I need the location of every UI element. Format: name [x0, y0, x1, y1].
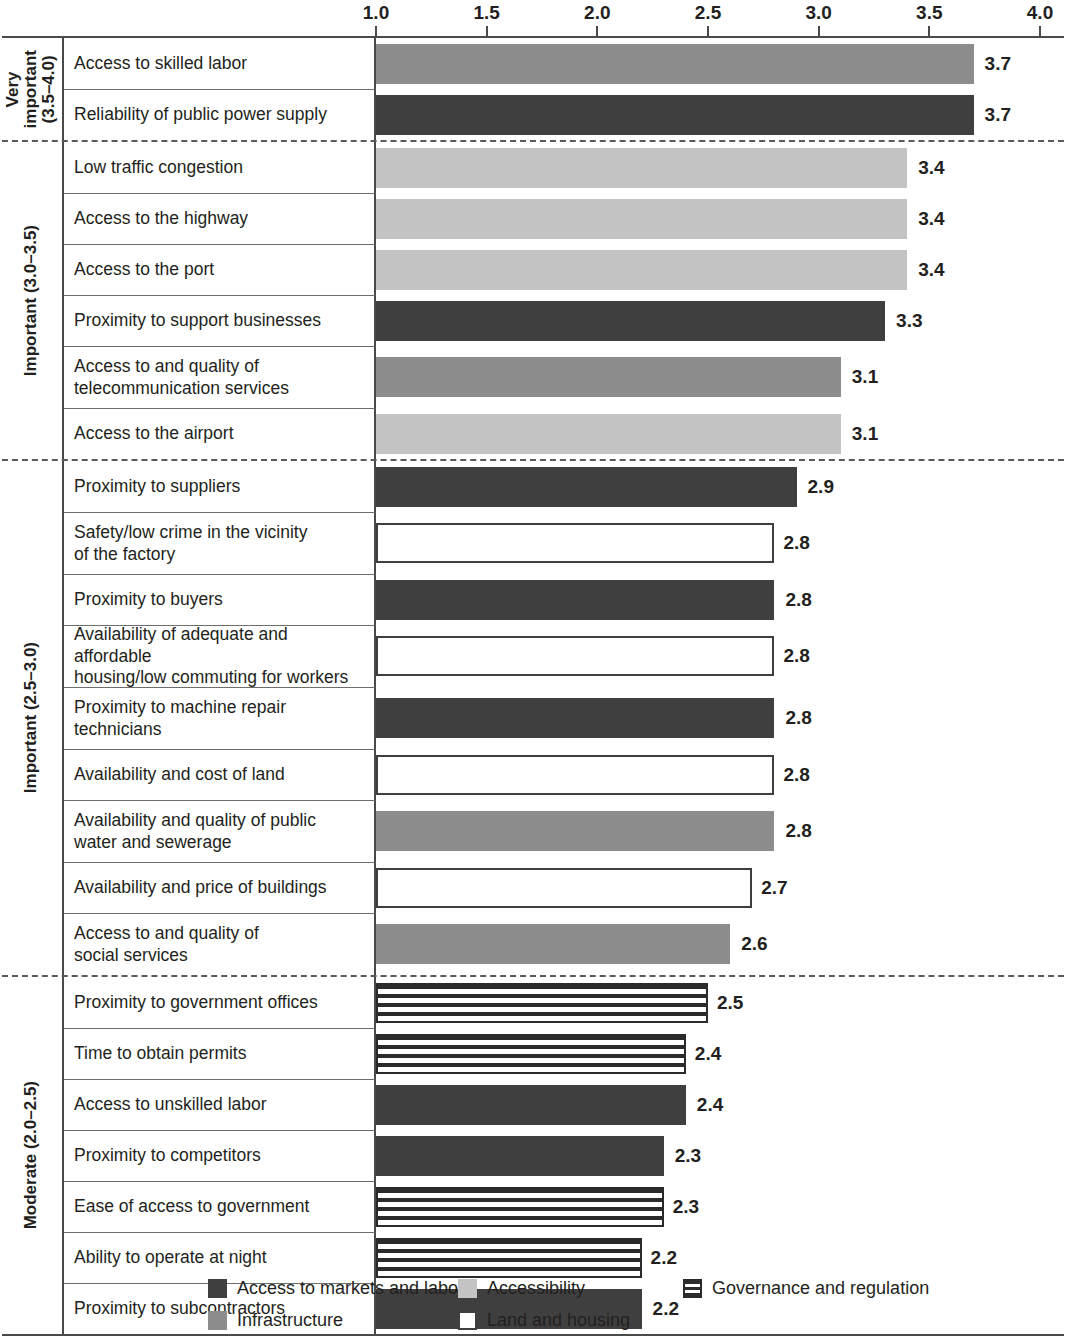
row-label: Access to the port: [64, 244, 376, 295]
x-axis-tick-label: 3.5: [916, 2, 942, 24]
row-label: Access to skilled labor: [64, 38, 376, 89]
legend-column: Access to markets and laborInfrastructur…: [208, 1278, 458, 1331]
bar-governance: 2.3: [376, 1187, 664, 1227]
bar-value-label: 3.4: [918, 208, 944, 230]
row-plot-area: 2.6: [376, 913, 1066, 975]
row-plot-area: 2.8: [376, 749, 1066, 800]
bar-infrastructure: 3.1: [376, 357, 841, 397]
chart-row: Proximity to support businesses3.3: [64, 295, 1066, 346]
row-label: Access to the highway: [64, 193, 376, 244]
bar-infrastructure: 3.7: [376, 44, 974, 84]
group-label-cell: Important (2.5–3.0): [0, 461, 64, 975]
chart-row: Access to and quality of social services…: [64, 913, 1066, 975]
row-label: Access to the airport: [64, 408, 376, 459]
row-label: Proximity to competitors: [64, 1130, 376, 1181]
bar-markets: 2.4: [376, 1085, 686, 1125]
bar-value-label: 3.3: [896, 310, 922, 332]
bar-value-label: 2.6: [741, 933, 767, 955]
bar-value-label: 3.1: [852, 423, 878, 445]
chart-row: Access to the highway3.4: [64, 193, 1066, 244]
chart-groups: Very important (3.5–4.0)Access to skille…: [0, 38, 1066, 1336]
row-label: Proximity to buyers: [64, 574, 376, 625]
x-axis-tick-label: 2.5: [695, 2, 721, 24]
chart-row: Access to and quality of telecommunicati…: [64, 346, 1066, 408]
x-axis-tick-label: 4.0: [1027, 2, 1053, 24]
legend-item-accessibility[interactable]: Accessibility: [458, 1278, 683, 1299]
chart-row: Availability and quality of public water…: [64, 800, 1066, 862]
legend-item-governance[interactable]: Governance and regulation: [683, 1278, 929, 1299]
legend-label: Governance and regulation: [712, 1278, 929, 1299]
bar-value-label: 2.8: [783, 532, 809, 554]
group-label-cell: Important (3.0–3.5): [0, 142, 64, 459]
legend-column: Governance and regulation: [683, 1278, 929, 1331]
row-label: Low traffic congestion: [64, 142, 376, 193]
row-label: Access to and quality of telecommunicati…: [64, 346, 376, 408]
legend-swatch-governance-icon: [683, 1279, 702, 1298]
chart-row: Availability of adequate and affordable …: [64, 625, 1066, 687]
bar-land: 2.8: [376, 523, 774, 563]
legend-item-land[interactable]: Land and housing: [458, 1310, 683, 1331]
bar-value-label: 3.7: [985, 53, 1011, 75]
row-label: Proximity to suppliers: [64, 461, 376, 512]
bar-infrastructure: 2.8: [376, 811, 774, 851]
legend-item-infrastructure[interactable]: Infrastructure: [208, 1310, 458, 1331]
group-label: Important (3.0–3.5): [22, 225, 40, 376]
group-rows: Low traffic congestion3.4Access to the h…: [64, 142, 1066, 459]
bar-value-label: 3.4: [918, 259, 944, 281]
chart-row: Ease of access to government2.3: [64, 1181, 1066, 1232]
bar-land: 2.8: [376, 755, 774, 795]
legend-label: Infrastructure: [237, 1310, 343, 1331]
bar-infrastructure: 2.6: [376, 924, 730, 964]
importance-of-location-factors-bar-chart: 1.01.52.02.53.03.54.0 Very important (3.…: [0, 0, 1066, 1337]
bar-value-label: 2.8: [785, 820, 811, 842]
row-label: Time to obtain permits: [64, 1028, 376, 1079]
x-axis-tick-label: 1.5: [473, 2, 499, 24]
row-label: Proximity to machine repair technicians: [64, 687, 376, 749]
row-plot-area: 2.3: [376, 1181, 1066, 1232]
group-label: Moderate (2.0–2.5): [22, 1081, 40, 1229]
chart-legend: Access to markets and laborInfrastructur…: [0, 1278, 1066, 1331]
bar-land: 2.7: [376, 868, 752, 908]
row-plot-area: 3.4: [376, 193, 1066, 244]
chart-row: Access to skilled labor3.7: [64, 38, 1066, 89]
bar-value-label: 2.9: [808, 476, 834, 498]
row-plot-area: 3.1: [376, 346, 1066, 408]
row-plot-area: 3.4: [376, 142, 1066, 193]
row-label: Safety/low crime in the vicinity of the …: [64, 512, 376, 574]
legend-item-markets[interactable]: Access to markets and labor: [208, 1278, 458, 1299]
row-label: Access to unskilled labor: [64, 1079, 376, 1130]
row-plot-area: 2.8: [376, 687, 1066, 749]
legend-label: Land and housing: [487, 1310, 630, 1331]
row-plot-area: 2.3: [376, 1130, 1066, 1181]
legend-label: Accessibility: [487, 1278, 585, 1299]
row-plot-area: 2.9: [376, 461, 1066, 512]
chart-row: Ability to operate at night2.2: [64, 1232, 1066, 1283]
row-label: Access to and quality of social services: [64, 913, 376, 975]
chart-row: Proximity to government offices2.5: [64, 977, 1066, 1028]
group-label: Important (2.5–3.0): [22, 642, 40, 793]
row-label: Proximity to support businesses: [64, 295, 376, 346]
row-plot-area: 2.8: [376, 625, 1066, 687]
row-plot-area: 2.8: [376, 800, 1066, 862]
row-plot-area: 3.3: [376, 295, 1066, 346]
x-axis-tick-label: 1.0: [363, 2, 389, 24]
row-label: Reliability of public power supply: [64, 89, 376, 140]
bar-value-label: 2.7: [761, 877, 787, 899]
chart-row: Access to the port3.4: [64, 244, 1066, 295]
legend-swatch-accessibility-icon: [458, 1279, 477, 1298]
row-plot-area: 2.7: [376, 862, 1066, 913]
bar-markets: 2.8: [376, 698, 774, 738]
bar-value-label: 3.1: [852, 366, 878, 388]
row-plot-area: 2.4: [376, 1028, 1066, 1079]
row-label: Availability and price of buildings: [64, 862, 376, 913]
bar-value-label: 2.8: [783, 764, 809, 786]
row-label: Proximity to government offices: [64, 977, 376, 1028]
bar-value-label: 2.3: [673, 1196, 699, 1218]
group-rows: Access to skilled labor3.7Reliability of…: [64, 38, 1066, 140]
bar-accessibility: 3.4: [376, 148, 907, 188]
bar-governance: 2.2: [376, 1238, 642, 1278]
row-label: Ability to operate at night: [64, 1232, 376, 1283]
legend-column: AccessibilityLand and housing: [458, 1278, 683, 1331]
row-plot-area: 2.8: [376, 512, 1066, 574]
importance-group: Important (3.0–3.5)Low traffic congestio…: [0, 142, 1066, 459]
